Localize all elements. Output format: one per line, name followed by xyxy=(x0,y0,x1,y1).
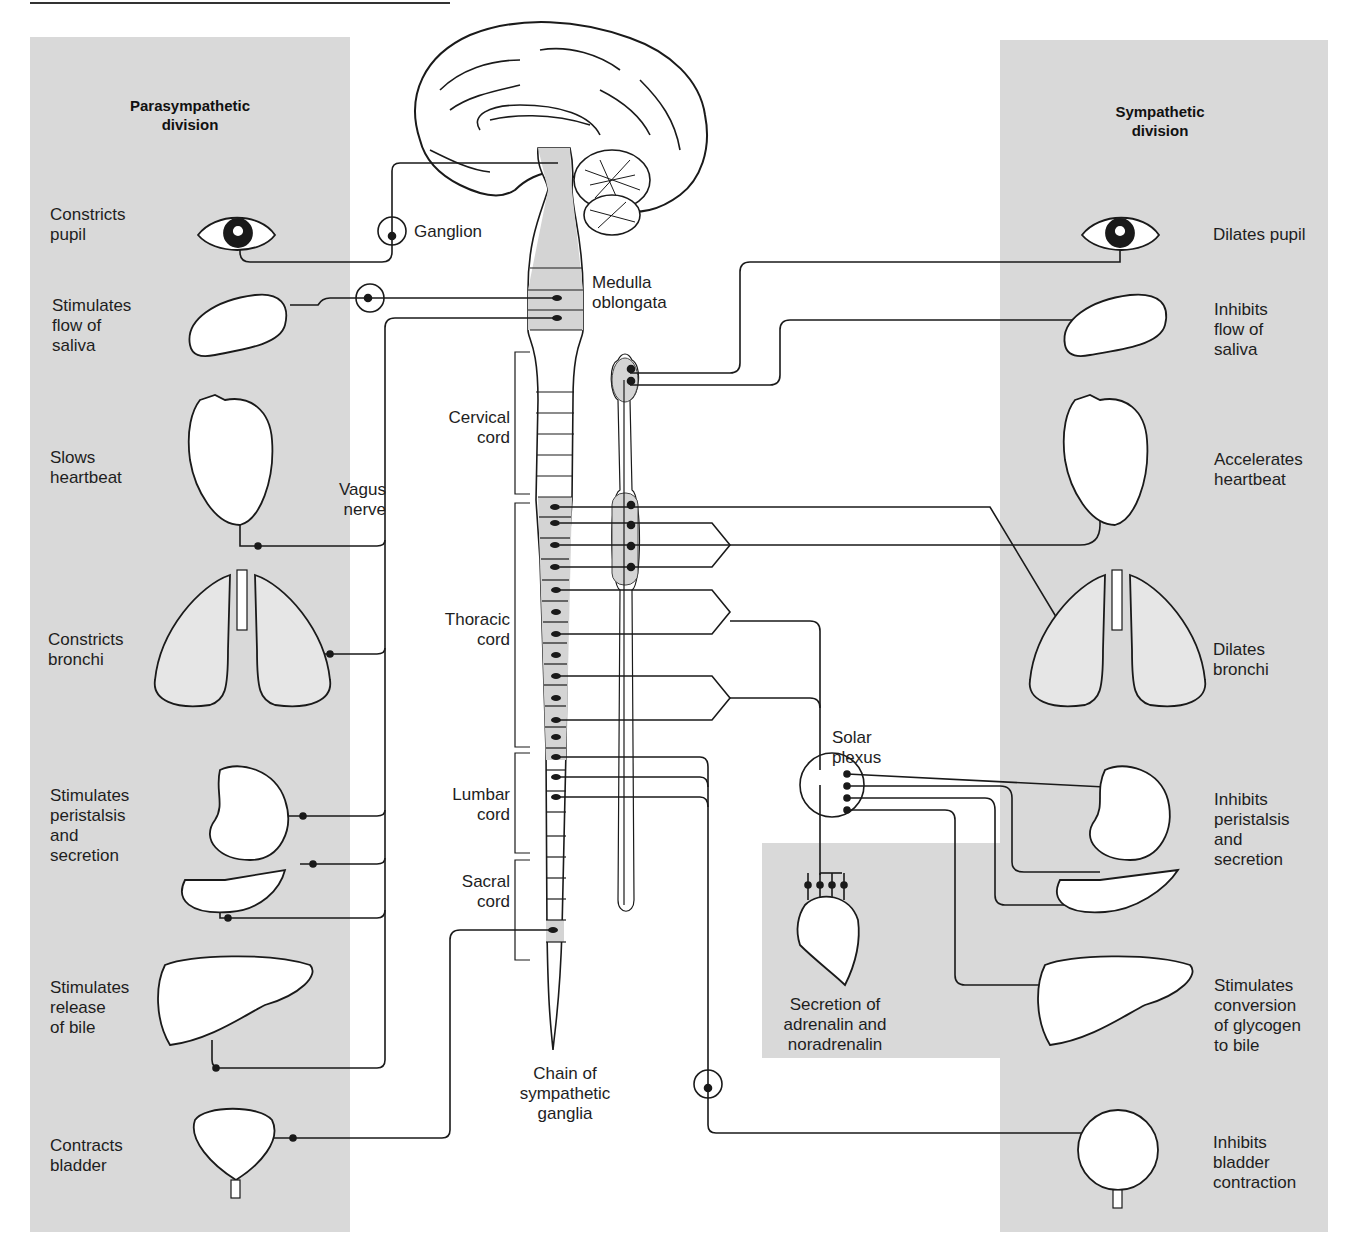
para-effect-stomach: Stimulatesperistalsisandsecretion xyxy=(50,786,129,866)
ganglion-label: Ganglion xyxy=(414,222,482,242)
chain-of-ganglia-label: Chain ofsympatheticganglia xyxy=(510,1064,620,1124)
organs-right xyxy=(798,218,1206,1208)
vagus-nerve-label: Vagusnerve xyxy=(334,480,386,520)
spinal-cord xyxy=(528,148,583,1050)
sacral-cord-label: Sacralcord xyxy=(440,872,510,912)
symp-effect-saliva: Inhibitsflow ofsaliva xyxy=(1214,300,1268,360)
liver-icon-right xyxy=(1038,956,1193,1045)
para-effect-eye: Constrictspupil xyxy=(50,205,126,245)
adrenal-secretion-label: Secretion ofadrenalin andnoradrenalin xyxy=(770,995,900,1055)
symp-effect-stomach: Inhibitsperistalsisandsecretion xyxy=(1214,790,1290,870)
solar-plexus-label: Solarplexus xyxy=(832,728,881,768)
cord-brackets xyxy=(515,352,530,960)
sympathetic-title: Sympathetic division xyxy=(1090,102,1230,140)
lumbar-cord-label: Lumbarcord xyxy=(440,785,510,825)
symp-effect-bladder: Inhibitsbladdercontraction xyxy=(1213,1133,1296,1193)
para-effect-bladder: Contractsbladder xyxy=(50,1136,123,1176)
symp-effect-eye: Dilates pupil xyxy=(1213,225,1306,245)
nervous-system-diagram xyxy=(0,0,1352,1256)
para-effect-saliva: Stimulatesflow ofsaliva xyxy=(52,296,131,356)
symp-effect-liver: Stimulatesconversionof glycogento bile xyxy=(1214,976,1301,1056)
thoracic-cord-label: Thoraciccord xyxy=(435,610,510,650)
cervical-cord-label: Cervicalcord xyxy=(440,408,510,448)
para-effect-liver: Stimulatesreleaseof bile xyxy=(50,978,129,1038)
heart-icon-left xyxy=(189,395,273,525)
para-effect-heart: Slowsheartbeat xyxy=(50,448,122,488)
pancreas-icon-left xyxy=(182,870,285,912)
adrenal-gland-icon xyxy=(798,897,859,985)
symp-effect-lungs: Dilatesbronchi xyxy=(1213,640,1269,680)
salivary-gland-icon-right xyxy=(1064,295,1166,357)
bladder-icon-left xyxy=(194,1109,275,1180)
liver-icon-left xyxy=(158,956,313,1045)
medulla-label: Medullaoblongata xyxy=(592,273,667,313)
parasympathetic-title: Parasympathetic division xyxy=(110,96,270,134)
stomach-icon-left xyxy=(210,766,288,860)
pancreas-icon-right xyxy=(1057,870,1178,912)
organs-left xyxy=(155,218,331,1198)
bladder-icon-right xyxy=(1078,1110,1158,1190)
sympathetic-chain xyxy=(611,354,639,911)
symp-effect-heart: Acceleratesheartbeat xyxy=(1214,450,1303,490)
para-effect-lungs: Constrictsbronchi xyxy=(48,630,124,670)
heart-icon-right xyxy=(1064,395,1148,525)
stomach-icon-right xyxy=(1090,766,1170,860)
salivary-gland-icon-left xyxy=(189,295,286,357)
